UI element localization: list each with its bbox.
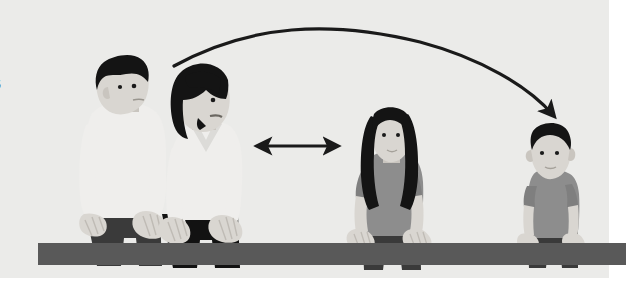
toddler-eye-right — [555, 151, 559, 155]
father-eye-right — [132, 84, 137, 89]
family-bench-illustration — [0, 0, 626, 296]
daughter-eye-right — [396, 133, 400, 137]
daughter-eye-left — [382, 133, 386, 137]
curved-arrow-mother-to-toddler — [174, 29, 553, 115]
toddler-right-arm — [568, 205, 579, 236]
person-mother — [158, 64, 242, 268]
toddler-eye-left — [540, 151, 544, 155]
illustration-stage: 5 — [0, 0, 626, 296]
bench-bar — [38, 243, 626, 265]
father-mouth — [133, 99, 144, 100]
toddler-left-arm — [523, 205, 534, 236]
person-father — [79, 55, 166, 266]
mother-eye — [211, 98, 216, 103]
father-eye-left — [118, 85, 122, 89]
